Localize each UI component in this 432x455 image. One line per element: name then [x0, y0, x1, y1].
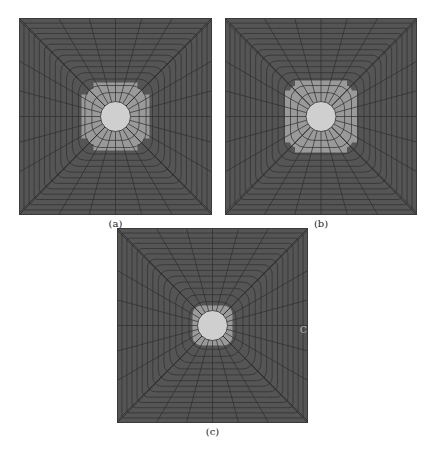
mesh-panel-b: [225, 18, 417, 215]
caption-c: (c): [193, 426, 233, 437]
tunnel-hole: [198, 311, 228, 341]
tunnel-hole: [306, 102, 336, 132]
mesh-panel-c: [117, 228, 308, 423]
stray-mark: C: [300, 325, 307, 335]
tunnel-hole: [101, 102, 131, 132]
mesh-panel-a: [19, 18, 212, 215]
